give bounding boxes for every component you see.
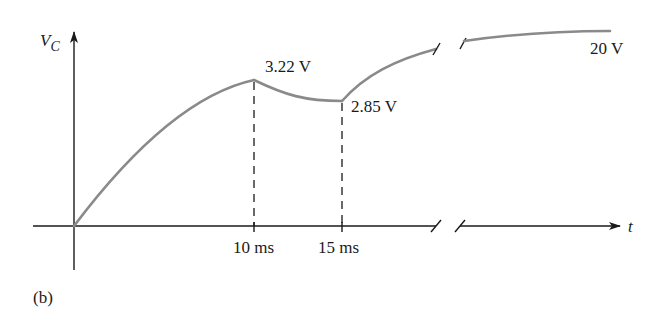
- peak-annotation: 3.22 V: [265, 57, 312, 76]
- tick-label-15ms: 15 ms: [318, 238, 359, 257]
- charge-curve-1: [74, 80, 254, 226]
- x-axis-label: t: [628, 217, 634, 236]
- charge-curve-asymptote: [464, 31, 610, 41]
- tick-label-10ms: 10 ms: [233, 238, 274, 257]
- charge-curve-2: [342, 49, 436, 101]
- voltage-diagram: VC t 3.22 V 2.85 V 20 V 10 ms 15 ms (b): [0, 0, 655, 324]
- final-value-annotation: 20 V: [590, 39, 624, 58]
- figure-caption: (b): [33, 288, 53, 307]
- y-axis-label: VC: [40, 31, 60, 54]
- discharge-curve: [254, 80, 342, 101]
- valley-annotation: 2.85 V: [351, 97, 398, 116]
